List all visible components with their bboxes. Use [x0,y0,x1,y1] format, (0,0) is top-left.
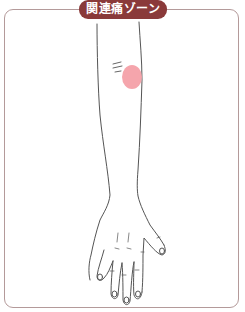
little-finger [97,250,113,280]
arm-illustration [0,0,245,312]
elbow-crease [113,62,122,72]
knuckle-lines [110,233,160,275]
pain-zone-highlight [122,65,142,89]
thumb-nail [160,248,165,254]
thumb-outline [142,238,165,292]
arm-right-outline [137,22,164,245]
arm-left-outline [89,24,110,280]
